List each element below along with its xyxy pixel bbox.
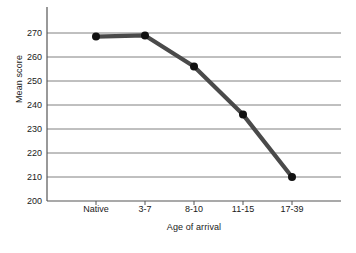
gridlines bbox=[47, 33, 341, 177]
data-point-11-15 bbox=[239, 111, 247, 119]
data-points bbox=[92, 31, 296, 181]
data-point-17-39 bbox=[288, 173, 296, 181]
x-axis-title: Age of arrival bbox=[47, 222, 341, 232]
data-point-3-7 bbox=[141, 31, 149, 39]
data-point-8-10 bbox=[190, 63, 198, 71]
plot-area bbox=[0, 0, 356, 253]
data-point-native bbox=[92, 33, 100, 41]
line-chart: Mean score 270 260 250 240 230 220 210 2… bbox=[0, 0, 356, 253]
x-tick-label-17-39: 17-39 bbox=[262, 205, 322, 214]
